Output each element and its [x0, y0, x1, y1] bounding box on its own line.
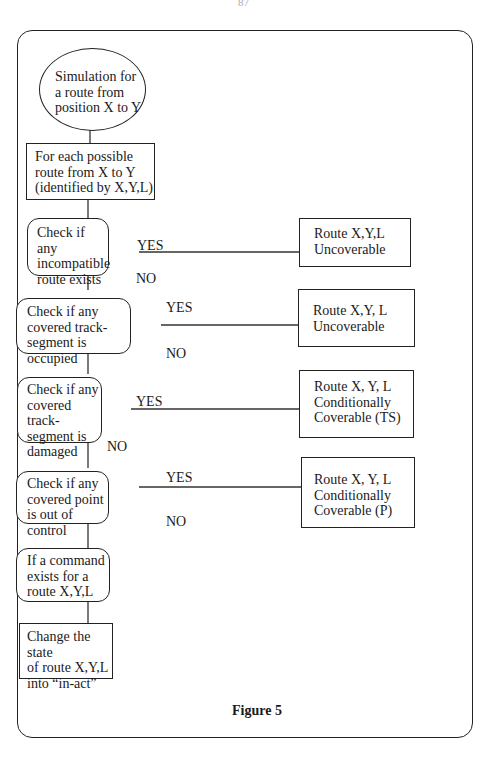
- result-uncoverable-2-text: Route X,Y, L Uncoverable: [313, 303, 414, 334]
- start-node-text: Simulation for a route from position X t…: [55, 69, 145, 116]
- command-node-text: If a command exists for a route X,Y,L: [27, 553, 109, 600]
- yes-label-3: YES: [136, 394, 162, 410]
- no-label-1: NO: [136, 271, 156, 287]
- no-label-3: NO: [107, 439, 127, 455]
- figure-caption: Figure 5: [232, 703, 282, 719]
- check-incompatible-text: Check if any incompatible route exists: [37, 225, 108, 287]
- no-label-2: NO: [166, 346, 186, 362]
- change-state-node: Change the state of route X,Y,L into “in…: [19, 623, 113, 679]
- result-conditional-p-text: Route X, Y, L Conditionally Coverable (P…: [314, 472, 414, 519]
- foreach-node: For each possible route from X to Y (ide…: [26, 143, 155, 200]
- start-node: Simulation for a route from position X t…: [39, 48, 146, 131]
- check-occupied-node: Check if any covered track- segment is o…: [16, 298, 131, 354]
- check-incompatible-node: Check if any incompatible route exists: [27, 218, 109, 276]
- command-node: If a command exists for a route X,Y,L: [16, 548, 110, 602]
- foreach-node-text: For each possible route from X to Y (ide…: [35, 149, 154, 196]
- result-uncoverable-1-text: Route X,Y,L Uncoverable: [314, 226, 410, 257]
- check-damaged-node: Check if any covered track- segment is d…: [17, 377, 102, 443]
- change-state-text: Change the state of route X,Y,L into “in…: [27, 629, 112, 691]
- no-label-4: NO: [166, 514, 186, 530]
- result-conditional-p: Route X, Y, L Conditionally Coverable (P…: [301, 457, 415, 528]
- check-point-node: Check if any covered point is out of con…: [16, 471, 109, 524]
- check-damaged-text: Check if any covered track- segment is d…: [27, 382, 101, 460]
- result-conditional-ts-text: Route X, Y, L Conditionally Coverable (T…: [314, 379, 413, 426]
- yes-label-4: YES: [166, 470, 192, 486]
- yes-label-2: YES: [166, 300, 192, 316]
- result-uncoverable-2: Route X,Y, L Uncoverable: [298, 289, 415, 347]
- check-point-text: Check if any covered point is out of con…: [27, 476, 108, 538]
- result-conditional-ts: Route X, Y, L Conditionally Coverable (T…: [299, 370, 414, 438]
- yes-label-1: YES: [137, 238, 163, 254]
- check-occupied-text: Check if any covered track- segment is o…: [27, 304, 130, 366]
- result-uncoverable-1: Route X,Y,L Uncoverable: [299, 218, 411, 267]
